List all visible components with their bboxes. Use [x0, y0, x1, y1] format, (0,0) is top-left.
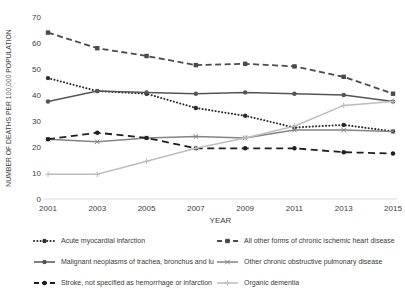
legend-label: Acute myocardial infarction	[61, 237, 145, 245]
svg-text:NUMBER OF DEATHS PER 100,000 P: NUMBER OF DEATHS PER 100,000 POPULATION	[5, 29, 12, 186]
svg-text:20: 20	[32, 143, 41, 152]
legend-sample-line	[33, 257, 56, 267]
svg-text:60: 60	[32, 39, 41, 48]
svg-text:YEAR: YEAR	[210, 216, 232, 225]
svg-text:2007: 2007	[187, 204, 205, 213]
line-chart: 0102030405060702001200320052007200920112…	[0, 0, 405, 229]
legend-item: All other forms of chronic ischemic hear…	[216, 236, 403, 246]
svg-text:2011: 2011	[286, 204, 304, 213]
legend-item: Other chronic obstructive pulmonary dise…	[216, 257, 403, 267]
legend-item: Organic dementia	[216, 278, 403, 288]
svg-text:70: 70	[32, 13, 41, 22]
svg-text:0: 0	[37, 195, 42, 204]
legend-sample-line	[216, 257, 239, 267]
legend-sample-line	[33, 278, 56, 288]
svg-text:2009: 2009	[236, 204, 254, 213]
legend-sample-line	[216, 236, 239, 246]
legend-item: Malignant neoplasms of trachea, bronchus…	[33, 257, 214, 267]
chart-figure: 0102030405060702001200320052007200920112…	[0, 0, 405, 296]
svg-text:2015: 2015	[384, 204, 402, 213]
legend-sample-line	[216, 278, 239, 288]
legend-item: Stroke, not specified as hemorrhage or i…	[33, 278, 214, 288]
legend-label: Organic dementia	[244, 279, 299, 287]
chart-legend: Acute myocardial infarction All other fo…	[0, 229, 405, 288]
svg-text:2003: 2003	[88, 204, 106, 213]
legend-sample-line	[33, 236, 56, 246]
legend-item: Acute myocardial infarction	[33, 236, 214, 246]
legend-label: Stroke, not specified as hemorrhage or i…	[61, 279, 212, 287]
svg-text:50: 50	[32, 65, 41, 74]
svg-text:2001: 2001	[39, 204, 57, 213]
legend-label: Other chronic obstructive pulmonary dise…	[244, 258, 383, 266]
svg-text:30: 30	[32, 117, 41, 126]
svg-text:10: 10	[32, 169, 41, 178]
svg-text:2005: 2005	[138, 204, 156, 213]
svg-text:2013: 2013	[335, 204, 353, 213]
svg-text:40: 40	[32, 91, 41, 100]
legend-label: Malignant neoplasms of trachea, bronchus…	[61, 258, 214, 266]
legend-label: All other forms of chronic ischemic hear…	[244, 237, 395, 245]
